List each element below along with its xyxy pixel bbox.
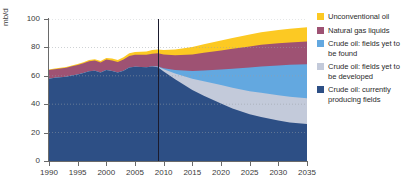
x-tick bbox=[192, 162, 193, 166]
legend-item[interactable]: Crude oil: currently producing fields bbox=[317, 85, 409, 104]
plot-area bbox=[49, 19, 307, 161]
y-tick-label: 80 bbox=[14, 43, 40, 51]
legend-swatch-icon bbox=[317, 13, 324, 20]
y-tick-label: 100 bbox=[14, 15, 40, 23]
legend-item[interactable]: Unconventional oil bbox=[317, 12, 409, 22]
x-axis-line bbox=[48, 161, 308, 162]
x-tick bbox=[278, 162, 279, 166]
x-tick bbox=[135, 162, 136, 166]
y-tick-label: 20 bbox=[14, 129, 40, 137]
x-tick-label: 2035 bbox=[290, 168, 324, 177]
legend-item-label: Unconventional oil bbox=[328, 12, 389, 22]
legend-item-label: Crude oil: fields yet to be developed bbox=[328, 62, 409, 81]
legend-swatch-icon bbox=[317, 86, 324, 93]
x-tick bbox=[106, 162, 107, 166]
legend-swatch-icon bbox=[317, 63, 324, 70]
y-tick-label: 40 bbox=[14, 100, 40, 108]
x-tick bbox=[250, 162, 251, 166]
x-tick bbox=[49, 162, 50, 166]
x-tick bbox=[164, 162, 165, 166]
y-axis-unit-label: mb/d bbox=[1, 8, 10, 26]
x-tick bbox=[307, 162, 308, 166]
legend-item[interactable]: Crude oil: fields yet to be developed bbox=[317, 62, 409, 81]
stacked-area-svg bbox=[49, 19, 307, 161]
oil-supply-area-chart: mb/d 020406080100 1990199520002005201020… bbox=[0, 0, 409, 195]
y-tick-label: 60 bbox=[14, 72, 40, 80]
legend-swatch-icon bbox=[317, 40, 324, 47]
legend-item-label: Crude oil: currently producing fields bbox=[328, 85, 409, 104]
legend-item[interactable]: Natural gas liquids bbox=[317, 26, 409, 36]
x-tick bbox=[221, 162, 222, 166]
legend-item-label: Crude oil: fields yet to be found bbox=[328, 39, 409, 58]
legend-swatch-icon bbox=[317, 27, 324, 34]
chart-legend: Unconventional oilNatural gas liquidsCru… bbox=[317, 12, 409, 108]
legend-item-label: Natural gas liquids bbox=[328, 26, 390, 36]
x-tick bbox=[78, 162, 79, 166]
y-tick-label: 0 bbox=[14, 157, 40, 165]
projection-divider-line bbox=[158, 19, 159, 161]
legend-item[interactable]: Crude oil: fields yet to be found bbox=[317, 39, 409, 58]
